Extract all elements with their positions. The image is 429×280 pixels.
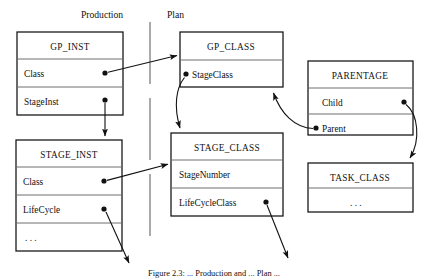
rel-parentage-parent-to-gpclass: [274, 93, 314, 129]
heading-plan: Plan: [167, 9, 184, 20]
figure-caption: Figure 2.3: ... Production and ... Plan …: [148, 269, 280, 278]
entity-gp-inst[interactable]: GP_INST Class StageInst: [17, 32, 123, 115]
attribute-label: Child: [322, 98, 343, 108]
relationship-dot: [101, 178, 106, 183]
attribute-label: Class: [23, 177, 44, 187]
diagram-canvas: Production Plan GP_INST Class StageInst …: [0, 0, 429, 280]
relationship-dot: [102, 70, 107, 75]
entity-task-class[interactable]: TASK_CLASS . . .: [308, 163, 413, 212]
attribute-label: StageInst: [24, 97, 59, 107]
entity-stage-inst[interactable]: STAGE_INST Class LifeCycle . . .: [16, 140, 122, 251]
attribute-label: LifeCycleClass: [179, 198, 237, 208]
entity-parentage[interactable]: PARENTAGE Child Parent: [308, 61, 413, 135]
entity-title: GP_INST: [50, 42, 89, 52]
entity-gp-class[interactable]: GP_CLASS StageClass: [180, 32, 283, 87]
entity-title: GP_CLASS: [207, 42, 255, 52]
relationship-dot: [263, 199, 268, 204]
attribute-label: LifeCycle: [23, 205, 60, 215]
attribute-label: Parent: [322, 124, 346, 134]
entity-title: PARENTAGE: [332, 71, 388, 81]
entity-stage-class[interactable]: STAGE_CLASS StageNumber LifeCycleClass: [171, 133, 283, 216]
heading-production: Production: [81, 9, 123, 20]
attribute-label: . . .: [350, 198, 362, 208]
entity-title: TASK_CLASS: [330, 173, 390, 183]
attribute-label: Class: [24, 69, 45, 79]
entity-title: STAGE_INST: [40, 150, 98, 160]
relationship-dot: [313, 125, 318, 130]
entity-relationship-diagram: Production Plan GP_INST Class StageInst …: [0, 0, 429, 280]
relationship-dot: [101, 206, 106, 211]
relationship-dot: [102, 97, 107, 102]
relationship-dot: [401, 99, 406, 104]
relationship-dot: [183, 71, 188, 76]
attribute-label: StageClass: [192, 70, 233, 80]
attribute-label: . . .: [25, 233, 37, 243]
attribute-label: StageNumber: [179, 170, 231, 180]
entity-title: STAGE_CLASS: [194, 143, 260, 153]
